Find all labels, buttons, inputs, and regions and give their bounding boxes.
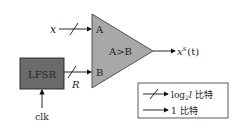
legend-bus-label: log2l 比特 xyxy=(171,89,213,101)
x-input-bus xyxy=(59,23,91,35)
port-a-label: A xyxy=(95,24,104,35)
port-b-label: B xyxy=(96,67,103,78)
diagram-canvas: x A B A>B xs(t) LFSR R clk log2l 比特 1 比特 xyxy=(0,0,232,128)
r-label: R xyxy=(71,79,80,90)
legend: log2l 比特 1 比特 xyxy=(138,83,228,118)
clk-label: clk xyxy=(35,112,49,122)
comparator-label: A>B xyxy=(108,46,132,57)
r-bus xyxy=(64,66,91,78)
legend-single-label: 1 比特 xyxy=(171,105,198,116)
lfsr-label: LFSR xyxy=(28,69,56,80)
output-label: xs(t) xyxy=(177,45,199,57)
x-label: x xyxy=(50,23,57,36)
